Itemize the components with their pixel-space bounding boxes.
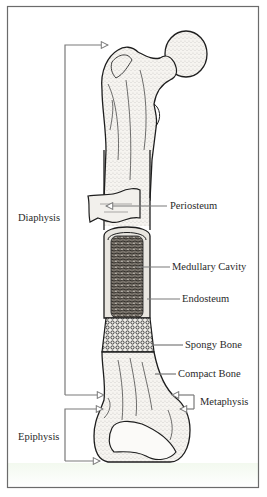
label-compact-bone: Compact Bone bbox=[178, 368, 241, 380]
label-periosteum: Periosteum bbox=[170, 200, 217, 212]
label-endosteum: Endosteum bbox=[182, 293, 229, 305]
label-metaphysis: Metaphysis bbox=[200, 396, 248, 408]
medullary-cavity-fill bbox=[111, 236, 143, 318]
proximal-epiphysis bbox=[102, 47, 177, 200]
label-spongy-bone: Spongy Bone bbox=[185, 339, 242, 351]
diaphysis-bracket bbox=[65, 45, 108, 395]
label-epiphysis: Epiphysis bbox=[18, 431, 59, 443]
label-medullary-cavity: Medullary Cavity bbox=[172, 261, 246, 273]
femur-illustration bbox=[88, 31, 207, 462]
label-diaphysis: Diaphysis bbox=[18, 212, 60, 224]
bone-diagram bbox=[0, 0, 267, 497]
spongy-bone-fill bbox=[102, 318, 154, 352]
